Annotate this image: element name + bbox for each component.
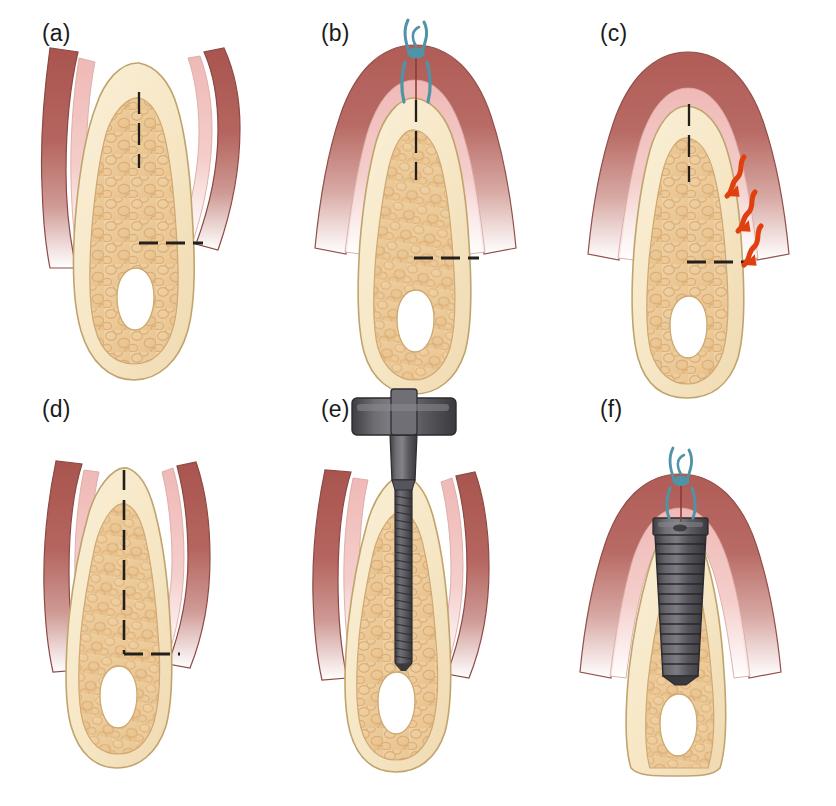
inferior-alveolar-canal: [100, 666, 137, 728]
instrument-collar: [390, 434, 417, 490]
panel-d: (d): [0, 376, 278, 779]
inferior-alveolar-canal: [397, 290, 434, 352]
suture-knot: [670, 448, 692, 486]
panel-b: (b): [279, 0, 557, 403]
panel-e: (e): [279, 376, 557, 779]
panel-c: (c): [558, 0, 836, 403]
inferior-alveolar-canal: [378, 672, 415, 734]
inferior-alveolar-canal: [670, 296, 707, 358]
inferior-alveolar-canal: [660, 694, 697, 756]
instrument-threaded-shaft: [395, 488, 412, 671]
panel-f-illustration: [558, 376, 836, 779]
suture-knot: [405, 20, 427, 59]
panel-d-illustration: [0, 376, 278, 779]
instrument-t-handle: [352, 389, 456, 435]
inferior-alveolar-canal: [117, 268, 154, 330]
panel-b-illustration: [279, 0, 557, 403]
dental-implant-body: [655, 534, 706, 685]
panel-a-illustration: [0, 0, 278, 403]
panel-a: (a): [0, 0, 278, 403]
panel-e-illustration: [279, 376, 557, 779]
panel-c-illustration: [558, 0, 836, 403]
panel-f: (f): [558, 376, 836, 779]
figure-canvas: (a) (b): [0, 0, 836, 806]
